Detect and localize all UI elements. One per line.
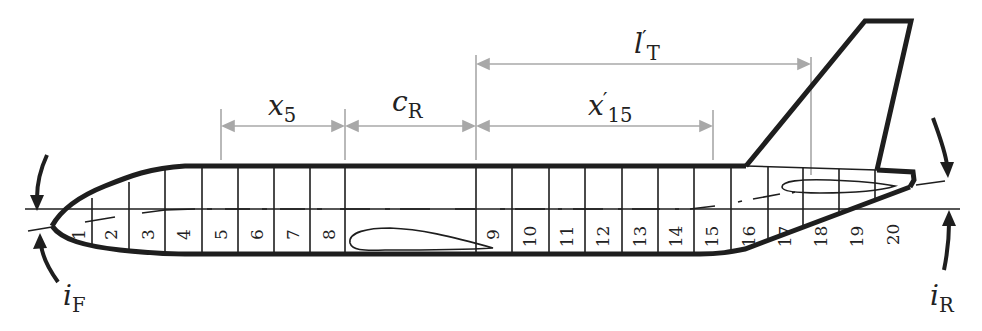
segment-label-15: 15 — [704, 222, 721, 252]
segment-label-3: 3 — [140, 220, 157, 250]
dimension-label-x5: x5 — [268, 92, 296, 125]
segment-label-14: 14 — [668, 222, 685, 252]
segment-label-17: 17 — [777, 222, 794, 252]
segment-label-7: 7 — [285, 220, 302, 250]
segment-label-12: 12 — [595, 222, 612, 252]
dimension-label-cR: cR — [392, 88, 422, 121]
segment-label-16: 16 — [741, 222, 758, 252]
segment-label-10: 10 — [522, 222, 539, 252]
dimension-label-lT-prime: l′T — [634, 28, 660, 64]
segment-label-5: 5 — [213, 220, 230, 250]
segment-label-19: 19 — [849, 222, 866, 252]
segment-label-20: 20 — [885, 220, 902, 250]
segment-label-13: 13 — [632, 222, 649, 252]
segment-label-2: 2 — [103, 220, 120, 250]
segment-label-11: 11 — [559, 222, 576, 252]
segment-label-8: 8 — [321, 220, 338, 250]
wing-airfoil — [350, 228, 493, 250]
segment-label-6: 6 — [249, 220, 266, 250]
segment-label-1: 1 — [71, 220, 88, 250]
dimension-lines — [221, 55, 811, 175]
angle-label-iR: iR — [930, 282, 954, 315]
fuselage-diagram: x5 cR x′15 l′T iF iR 1 2 3 4 5 6 7 8 9 1… — [0, 0, 982, 331]
angle-label-iF: iF — [63, 282, 86, 315]
segment-label-18: 18 — [813, 222, 830, 252]
angle-arrows — [30, 118, 956, 282]
dimension-label-x15-prime: x′15 — [588, 90, 633, 126]
segment-label-9: 9 — [485, 220, 502, 250]
diagram-graphics — [0, 0, 982, 331]
segment-label-4: 4 — [176, 220, 193, 250]
